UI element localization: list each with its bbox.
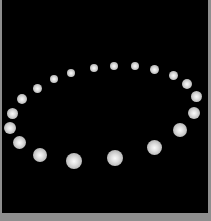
- sphere: [173, 123, 187, 137]
- sphere: [33, 148, 47, 162]
- sphere: [66, 153, 82, 169]
- image-panel: Ring of white spheres arranged in a pers…: [2, 0, 208, 213]
- sphere: [90, 64, 98, 72]
- sphere: [150, 65, 159, 74]
- sphere: [169, 71, 178, 80]
- sphere: [188, 107, 200, 119]
- sphere: [7, 108, 18, 119]
- sphere: [50, 75, 58, 83]
- sphere: [182, 79, 192, 89]
- sphere: [13, 136, 26, 149]
- sphere: [147, 140, 162, 155]
- sphere: [131, 62, 139, 70]
- sphere: [107, 150, 123, 166]
- sphere: [110, 62, 118, 70]
- sphere: [17, 94, 27, 104]
- sphere: [191, 91, 202, 102]
- sphere: [67, 69, 75, 77]
- sphere: [4, 122, 16, 134]
- sphere: [33, 84, 42, 93]
